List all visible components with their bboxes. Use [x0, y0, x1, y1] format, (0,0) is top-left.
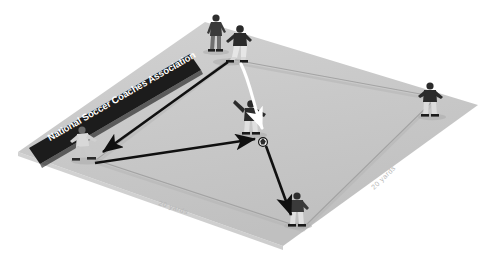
player-top-server-shorts-right — [241, 46, 247, 57]
player-left-head — [78, 126, 85, 133]
soccer-ball — [259, 138, 268, 147]
player-right-boot-left — [421, 114, 429, 117]
player-bottom-boot-right — [298, 224, 306, 227]
player-center-leg-left — [244, 121, 250, 133]
player-left-torso — [76, 133, 89, 147]
player-left-boot-right — [87, 157, 96, 160]
player-right-boot-right — [431, 114, 439, 117]
player-center-boot-right — [252, 132, 260, 135]
player-top-server-torso — [233, 33, 247, 46]
player-top-server-boot-right — [240, 60, 248, 63]
diagram-root: 20 yards 20 yards National Soccer Coache… — [0, 0, 492, 268]
player-top-rear-leg-right — [217, 36, 221, 50]
player-bottom-head — [293, 192, 300, 199]
soccer-grid-illustration: 20 yards 20 yards National Soccer Coache… — [0, 0, 492, 268]
player-center-boot-left — [242, 132, 250, 135]
player-bottom-torso — [290, 200, 304, 212]
player-right-torso — [423, 90, 437, 102]
player-top-rear-head — [212, 14, 219, 21]
player-bottom-leg-right — [298, 212, 304, 225]
player-top-server-head — [236, 25, 244, 33]
player-right-head — [426, 82, 433, 89]
diagram-stage: 20 yards 20 yards National Soccer Coache… — [0, 0, 492, 268]
player-left-boot-left — [72, 158, 80, 161]
player-right-leg-left — [423, 102, 429, 115]
player-center-leg-right — [252, 121, 258, 133]
player-top-rear-boot-left — [208, 49, 215, 52]
player-top-rear-boot-right — [216, 49, 223, 52]
player-right-leg-right — [431, 102, 437, 115]
player-bottom-boot-left — [288, 224, 296, 227]
